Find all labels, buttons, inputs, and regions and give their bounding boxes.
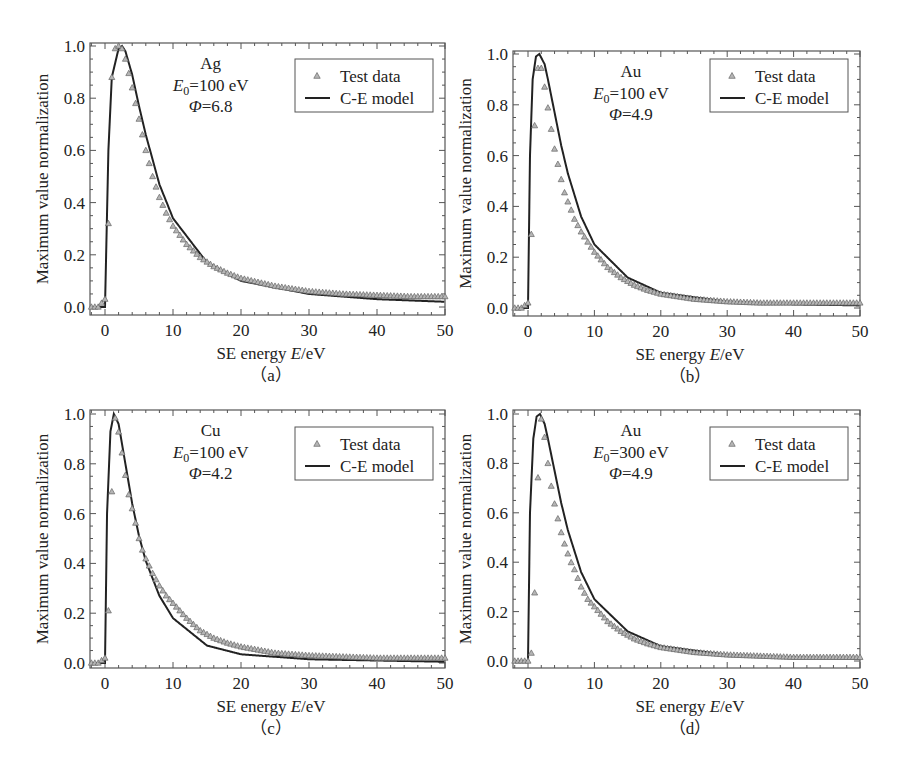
y-tick-label: 0.0 xyxy=(64,298,85,317)
legend-test-data: Test data xyxy=(340,67,401,86)
chart-panel-c: 010203040500.00.20.40.60.81.0Maximum val… xyxy=(33,405,454,738)
x-tick-label: 20 xyxy=(652,674,669,693)
e0-label: E0=100 eV xyxy=(172,76,249,98)
y-tick-label: 0.0 xyxy=(487,652,508,671)
material-label: Cu xyxy=(201,421,221,440)
y-tick-label: 0.6 xyxy=(487,504,508,523)
panel-caption: （b） xyxy=(669,367,712,386)
x-tick-label: 0 xyxy=(101,674,110,693)
x-tick-label: 20 xyxy=(652,322,669,341)
y-tick-label: 0.2 xyxy=(487,248,508,267)
x-tick-label: 40 xyxy=(785,322,802,341)
y-axis-title: Maximum value normalization xyxy=(33,73,52,284)
x-tick-label: 20 xyxy=(233,321,250,340)
e0-label: E0=100 eV xyxy=(592,84,669,106)
y-tick-label: 0.8 xyxy=(64,455,85,474)
legend-ce-model: C-E model xyxy=(755,89,829,108)
y-tick-label: 1.0 xyxy=(64,405,85,424)
phi-label: Φ=4.2 xyxy=(189,464,233,483)
x-tick-label: 30 xyxy=(719,674,736,693)
x-tick-label: 50 xyxy=(852,674,869,693)
y-tick-label: 0.0 xyxy=(64,654,85,673)
material-label: Au xyxy=(621,421,642,440)
x-axis-title: SE energy E/eV xyxy=(635,697,745,716)
y-tick-label: 1.0 xyxy=(487,405,508,424)
figure-canvas: 010203040500.00.20.40.60.81.0Maximum val… xyxy=(0,0,906,775)
y-axis-title: Maximum value normalization xyxy=(33,433,52,644)
y-tick-label: 0.6 xyxy=(64,505,85,524)
x-axis-title: SE energy E/eV xyxy=(216,697,326,716)
y-tick-label: 0.4 xyxy=(64,554,86,573)
y-tick-label: 0.2 xyxy=(487,603,508,622)
x-tick-label: 10 xyxy=(586,322,603,341)
y-tick-label: 0.8 xyxy=(487,96,508,115)
y-tick-label: 0.6 xyxy=(64,141,85,160)
phi-label: Φ=4.9 xyxy=(609,464,653,483)
x-tick-label: 40 xyxy=(369,321,386,340)
y-tick-label: 0.8 xyxy=(487,454,508,473)
legend-ce-model: C-E model xyxy=(340,89,414,108)
x-axis-title: SE energy E/eV xyxy=(216,344,326,363)
x-tick-label: 40 xyxy=(785,674,802,693)
e0-label: E0=100 eV xyxy=(172,443,249,465)
chart-panel-a: 010203040500.00.20.40.60.81.0Maximum val… xyxy=(33,37,454,385)
chart-panel-b: 010203040500.00.20.40.60.81.0Maximum val… xyxy=(456,45,869,386)
phi-label: Φ=6.8 xyxy=(189,97,233,116)
y-tick-label: 0.2 xyxy=(64,246,85,265)
x-tick-label: 0 xyxy=(101,321,110,340)
x-axis-title: SE energy E/eV xyxy=(635,345,745,364)
x-tick-label: 0 xyxy=(524,674,533,693)
y-axis-title: Maximum value normalization xyxy=(456,78,475,289)
legend-ce-model: C-E model xyxy=(340,457,414,476)
x-tick-label: 20 xyxy=(233,674,250,693)
chart-panel-d: 010203040500.00.20.40.60.81.0Maximum val… xyxy=(456,405,869,738)
x-tick-label: 50 xyxy=(852,322,869,341)
x-tick-label: 30 xyxy=(719,322,736,341)
y-tick-label: 0.6 xyxy=(487,147,508,166)
y-tick-label: 1.0 xyxy=(487,45,508,64)
x-tick-label: 30 xyxy=(301,674,318,693)
panel-caption: （d） xyxy=(669,719,712,738)
y-tick-label: 0.2 xyxy=(64,604,85,623)
y-tick-label: 0.4 xyxy=(64,194,86,213)
y-tick-label: 1.0 xyxy=(64,37,85,56)
panel-caption: （c） xyxy=(250,719,292,738)
y-tick-label: 0.4 xyxy=(487,553,509,572)
legend-test-data: Test data xyxy=(340,435,401,454)
y-axis-title: Maximum value normalization xyxy=(456,433,475,644)
legend: Test dataC-E model xyxy=(710,427,848,480)
legend: Test dataC-E model xyxy=(295,59,433,112)
panel-caption: （a） xyxy=(250,366,292,385)
legend-ce-model: C-E model xyxy=(755,457,829,476)
x-tick-label: 10 xyxy=(165,321,182,340)
e0-label: E0=300 eV xyxy=(592,443,669,465)
legend: Test dataC-E model xyxy=(295,427,433,480)
y-tick-label: 0.4 xyxy=(487,197,509,216)
x-tick-label: 50 xyxy=(437,674,454,693)
legend: Test dataC-E model xyxy=(710,59,848,112)
material-label: Ag xyxy=(200,54,221,73)
y-tick-label: 0.8 xyxy=(64,89,85,108)
x-tick-label: 10 xyxy=(586,674,603,693)
legend-test-data: Test data xyxy=(755,435,816,454)
x-tick-label: 50 xyxy=(437,321,454,340)
phi-label: Φ=4.9 xyxy=(609,105,653,124)
y-tick-label: 0.0 xyxy=(487,299,508,318)
legend-test-data: Test data xyxy=(755,67,816,86)
x-tick-label: 30 xyxy=(301,321,318,340)
material-label: Au xyxy=(621,62,642,81)
x-tick-label: 10 xyxy=(165,674,182,693)
x-tick-label: 40 xyxy=(369,674,386,693)
x-tick-label: 0 xyxy=(524,322,533,341)
